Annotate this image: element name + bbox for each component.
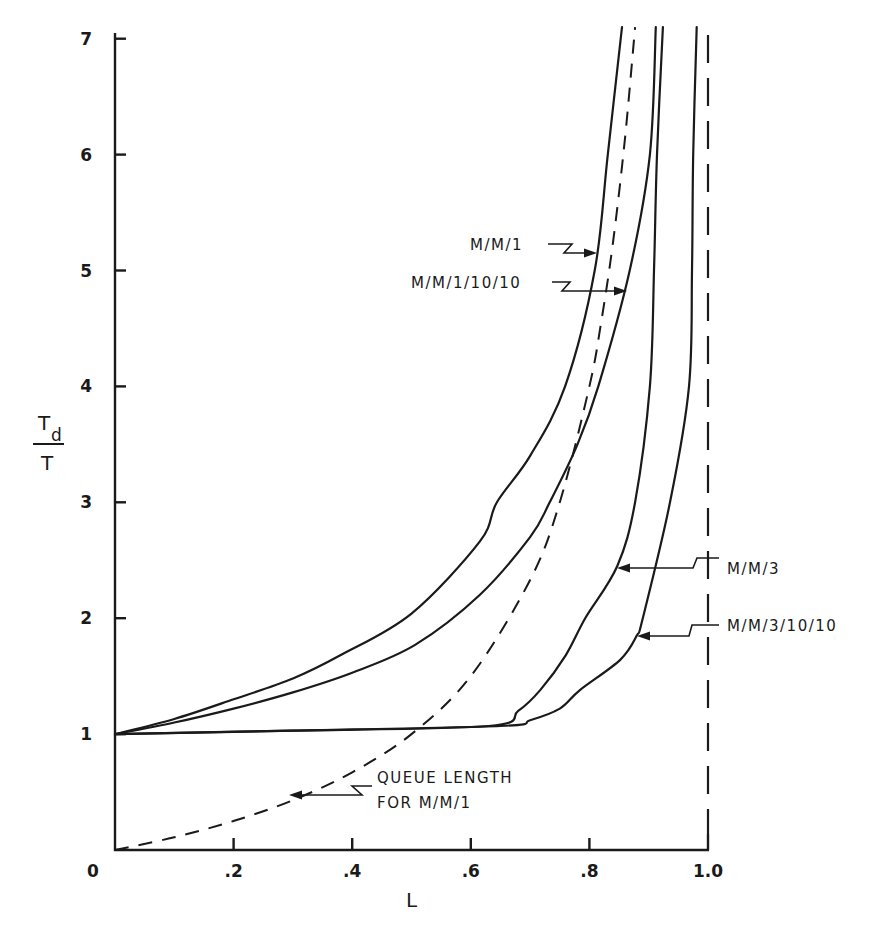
y-tick-label: 6	[80, 145, 92, 165]
leader-mm3	[625, 558, 719, 568]
y-ticks: 1234567	[80, 29, 126, 744]
curve-queue-length-for-m-m-1	[115, 27, 635, 850]
x-tick-label: .6	[462, 861, 480, 881]
annotation-mm3: M/M/3	[617, 558, 780, 578]
leader-mm3-10-10	[645, 625, 719, 636]
x-tick-label: .4	[343, 861, 361, 881]
y-tick-label: 5	[80, 261, 92, 281]
y-title-numerator: T	[37, 411, 51, 435]
curve-m-m-1	[115, 27, 622, 734]
arrowhead-queue-length	[289, 791, 302, 800]
label-mm3-10-10: M/M/3/10/10	[727, 617, 837, 635]
label-mm1-10-10: M/M/1/10/10	[411, 274, 521, 292]
annotation-mm3-10-10: M/M/3/10/10	[637, 617, 837, 641]
queue-delay-chart: 1234567 0.2.4.6.81.0 T d T L M/M/1 M/M/1…	[0, 0, 889, 935]
curves	[115, 27, 697, 850]
y-tick-label: 1	[80, 724, 92, 744]
curve-m-m-1-10-10	[115, 27, 656, 734]
x-axis-title: L	[406, 888, 418, 912]
x-tick-label: .2	[224, 861, 242, 881]
arrowhead-mm1	[584, 249, 597, 258]
x-tick-label: 1.0	[693, 861, 723, 881]
annotation-queue-length: QUEUE LENGTH FOR M/M/1	[289, 769, 513, 812]
x-tick-label: .8	[580, 861, 598, 881]
y-tick-label: 2	[80, 608, 92, 628]
label-mm3: M/M/3	[727, 560, 780, 578]
y-tick-label: 3	[80, 492, 92, 512]
x-ticks: 0.2.4.6.81.0	[87, 838, 723, 881]
y-tick-label: 7	[80, 29, 92, 49]
x-tick-label: 0	[87, 861, 99, 881]
leader-mm1-10-10	[552, 282, 620, 291]
leader-mm1	[548, 244, 590, 253]
annotation-mm1: M/M/1	[470, 236, 597, 258]
label-mm1: M/M/1	[470, 236, 523, 254]
label-queue-length-line1: QUEUE LENGTH	[377, 769, 513, 787]
label-queue-length-line2: FOR M/M/1	[377, 794, 472, 812]
annotation-mm1-10-10: M/M/1/10/10	[411, 274, 627, 296]
y-axis-title: T d T	[33, 411, 64, 475]
y-title-subscript: d	[51, 425, 62, 445]
y-tick-label: 4	[80, 376, 92, 396]
y-title-denominator: T	[40, 451, 54, 475]
